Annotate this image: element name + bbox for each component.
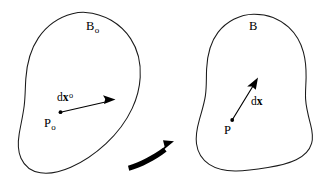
reference-vector-label-symbol: x: [63, 91, 69, 103]
reference-region-label-base: B: [86, 19, 95, 33]
current-point-label-base: P: [224, 123, 231, 137]
reference-body-outline: [18, 12, 140, 173]
deformation-map-arrow-head: [161, 140, 174, 152]
current-vector-label-symbol: x: [257, 95, 263, 107]
current-body-outline: [196, 14, 312, 171]
current-region-label-base: B: [249, 19, 258, 33]
reference-region-label: Bo: [86, 20, 100, 35]
current-vector-label: dx: [251, 96, 263, 108]
current-point-label: P: [224, 124, 231, 137]
deformation-figure: Bo B dxo Po dx P: [0, 0, 325, 183]
reference-point-label-subscript: o: [51, 122, 56, 132]
current-region-label: B: [249, 20, 258, 33]
reference-point-label: Po: [44, 117, 56, 132]
reference-vector-label-superscript: o: [69, 91, 73, 100]
reference-point-label-base: P: [44, 116, 51, 130]
reference-region-label-subscript: o: [95, 25, 100, 35]
figure-canvas: [0, 0, 325, 183]
deformation-map-arrow-body: [128, 148, 167, 171]
current-point-P-marker: [230, 118, 234, 122]
reference-point-P0-marker: [59, 110, 63, 114]
reference-vector-label: dxo: [57, 92, 73, 104]
